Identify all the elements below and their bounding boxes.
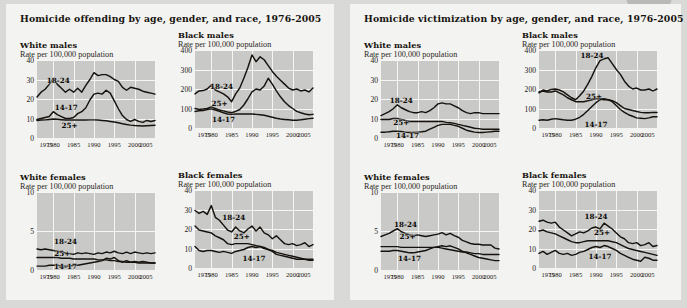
- x-axis-tick-label: 1985: [225, 131, 238, 138]
- x-axis-tick-label: 1990: [245, 131, 258, 138]
- y-axis-tick-label: 10: [364, 188, 378, 197]
- y-axis-tick-label: 0: [178, 124, 192, 133]
- x-axis-tick-labels: 1975198019851990199520002005: [37, 141, 155, 151]
- chart-title: White females: [20, 172, 86, 182]
- series-label-14-17: 14-17: [589, 252, 612, 261]
- plot-area: 18-2425+14-17: [381, 60, 499, 138]
- x-axis-tick-labels: 1975198019851990199520002005: [381, 273, 499, 283]
- gridline-vertical: [499, 60, 500, 138]
- series-label-25+: 25+: [594, 227, 610, 236]
- plot-area: 18-2425+14-17: [195, 190, 313, 268]
- series-label-14-17: 14-17: [212, 114, 235, 123]
- x-axis-tick-label: 1980: [549, 131, 562, 138]
- x-axis-tick-label: 1980: [205, 131, 218, 138]
- y-axis-tick-label: 200: [178, 85, 192, 94]
- x-axis-tick-label: 1980: [391, 141, 404, 148]
- series-line-18-24: [195, 55, 313, 102]
- y-axis-tick-label: 20: [178, 225, 192, 234]
- x-axis-tick-label: 1995: [452, 273, 465, 280]
- x-axis-tick-label: 1995: [108, 273, 121, 280]
- x-axis-tick-label: 1985: [411, 273, 424, 280]
- y-axis-tick-label: 10: [20, 188, 34, 197]
- series-label-14-17: 14-17: [398, 254, 421, 263]
- x-axis-tick-label: 1985: [67, 141, 80, 148]
- series-label-18-24: 18-24: [584, 212, 607, 221]
- y-axis-tick-label: 20: [522, 225, 536, 234]
- plot-wrapper: 18-2425+14-17010020030040019751980198519…: [178, 50, 313, 142]
- y-axis-tick-label: 10: [178, 244, 192, 253]
- x-axis-tick-label: 2005: [641, 131, 654, 138]
- series-label-18-24: 18-24: [47, 76, 70, 85]
- x-axis-tick-label: 1990: [589, 271, 602, 278]
- x-axis-tick-label: 1990: [431, 141, 444, 148]
- panel-title-offending: Homicide offending by age, gender, and r…: [20, 13, 321, 24]
- series-lines: [37, 60, 155, 138]
- x-axis-tick-label: 1990: [245, 271, 258, 278]
- chart-title: Black males: [178, 30, 234, 40]
- plot-wrapper: 18-2425+14-17010020030040019751980198519…: [522, 50, 657, 142]
- x-axis-tick-label: 1985: [569, 271, 582, 278]
- y-axis-tick-label: 0: [20, 134, 34, 143]
- y-axis-tick-label: 40: [364, 56, 378, 65]
- figure-page: Homicide offending by age, gender, and r…: [0, 0, 687, 308]
- y-axis-tick-label: 0: [20, 266, 34, 275]
- chart-title: White females: [364, 172, 430, 182]
- series-line-14-17: [539, 99, 657, 120]
- x-axis-tick-label: 1995: [266, 271, 279, 278]
- y-axis-tick-label: 10: [522, 244, 536, 253]
- plot-wrapper: 18-2425+14-17051019751980198519901995200…: [20, 192, 155, 284]
- x-axis-tick-label: 2005: [297, 131, 310, 138]
- y-axis-tick-label: 30: [364, 75, 378, 84]
- plot-wrapper: 18-2425+14-17010203040197519801985199019…: [364, 60, 499, 152]
- x-axis-tick-label: 1985: [225, 271, 238, 278]
- x-axis-tick-label: 1980: [205, 271, 218, 278]
- series-label-14-17: 14-17: [55, 102, 78, 111]
- x-axis-tick-label: 2005: [139, 273, 152, 280]
- series-label-14-17: 14-17: [243, 254, 266, 263]
- series-label-18-24: 18-24: [580, 50, 603, 59]
- y-axis-tick-label: 100: [522, 104, 536, 113]
- x-axis-tick-label: 1980: [391, 273, 404, 280]
- plot-area: 18-2425+14-17: [37, 192, 155, 270]
- x-axis-tick-labels: 1975198019851990199520002005: [195, 271, 313, 281]
- x-axis-tick-label: 1995: [610, 131, 623, 138]
- plot-area: 18-2425+14-17: [195, 50, 313, 128]
- gridline-vertical: [657, 190, 658, 268]
- series-label-14-17: 14-17: [54, 261, 77, 270]
- y-axis-tick-label: 40: [522, 186, 536, 195]
- y-axis-tick-label: 5: [20, 227, 34, 236]
- x-axis-tick-label: 1985: [411, 141, 424, 148]
- plot-wrapper: 18-2425+14-17010203040197519801985199019…: [178, 190, 313, 282]
- y-axis-tick-label: 0: [522, 124, 536, 133]
- x-axis-tick-label: 1980: [47, 273, 60, 280]
- plot-area: 18-2425+14-17: [381, 192, 499, 270]
- y-axis-tick-label: 30: [522, 205, 536, 214]
- y-axis-tick-label: 10: [20, 114, 34, 123]
- y-axis-tick-label: 200: [522, 85, 536, 94]
- plot-wrapper: 18-2425+14-17010203040197519801985199019…: [522, 190, 657, 282]
- chart-title: White males: [20, 40, 77, 50]
- y-axis-tick-label: 0: [364, 266, 378, 275]
- series-label-25+: 25+: [234, 231, 250, 240]
- series-line-18-24: [381, 103, 499, 116]
- y-axis-tick-label: 300: [522, 65, 536, 74]
- x-axis-tick-label: 1980: [47, 141, 60, 148]
- y-axis-tick-label: 0: [364, 134, 378, 143]
- gridline-vertical: [155, 192, 156, 270]
- plot-wrapper: 18-2414-1725+010203040197519801985199019…: [20, 60, 155, 152]
- series-label-25+: 25+: [393, 118, 409, 127]
- y-axis-tick-label: 100: [178, 104, 192, 113]
- series-label-25+: 25+: [62, 121, 78, 130]
- series-label-18-24: 18-24: [390, 95, 413, 104]
- series-lines: [37, 192, 155, 270]
- y-axis-tick-label: 0: [178, 264, 192, 273]
- x-axis-tick-labels: 1975198019851990199520002005: [539, 271, 657, 281]
- y-axis-tick-label: 5: [364, 227, 378, 236]
- y-axis-tick-label: 40: [20, 56, 34, 65]
- x-axis-tick-label: 1995: [610, 271, 623, 278]
- plot-area: 18-2425+14-17: [539, 190, 657, 268]
- panel-title-victimization: Homicide victimization by age, gender, a…: [364, 13, 684, 24]
- x-axis-tick-label: 2005: [483, 273, 496, 280]
- x-axis-tick-label: 2005: [483, 141, 496, 148]
- series-label-14-17: 14-17: [584, 120, 607, 129]
